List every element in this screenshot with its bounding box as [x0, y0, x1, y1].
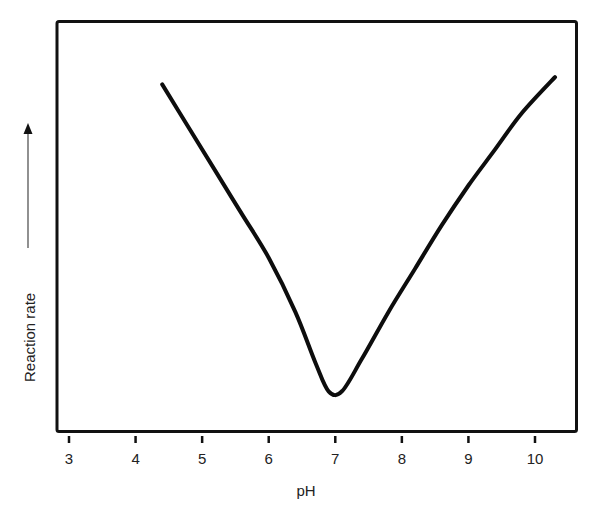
- y-axis-label-group: Reaction rate: [21, 123, 38, 382]
- y-axis-label: Reaction rate: [21, 293, 38, 382]
- x-tick-label: 3: [65, 450, 73, 467]
- x-axis-ticks: 345678910: [65, 436, 544, 467]
- y-axis-arrow-head-icon: [24, 123, 33, 134]
- x-tick-label: 9: [464, 450, 472, 467]
- x-tick-label: 6: [265, 450, 273, 467]
- x-tick-label: 7: [331, 450, 339, 467]
- ph-reaction-rate-chart: 345678910 pH Reaction rate: [0, 0, 591, 506]
- x-tick-label: 10: [527, 450, 544, 467]
- x-tick-label: 8: [398, 450, 406, 467]
- x-axis-label: pH: [296, 482, 315, 499]
- x-tick-label: 5: [198, 450, 206, 467]
- reaction-rate-curve: [162, 77, 555, 395]
- x-tick-label: 4: [131, 450, 139, 467]
